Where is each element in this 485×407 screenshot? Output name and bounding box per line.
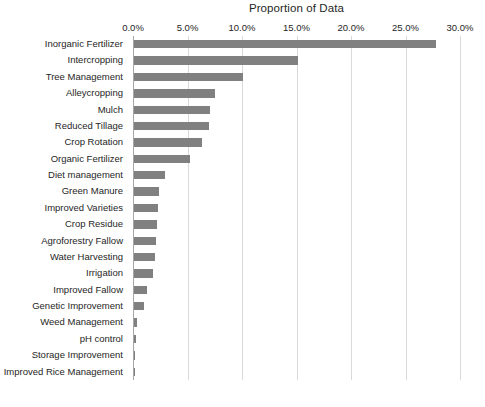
- category-label: Green Manure: [0, 183, 128, 199]
- bar: [134, 138, 202, 146]
- chart-row: Intercropping: [0, 52, 485, 68]
- bar: [134, 89, 215, 97]
- category-label: Tree Management: [0, 69, 128, 85]
- category-label: Storage Improvement: [0, 347, 128, 363]
- bar: [134, 40, 436, 48]
- chart-row: Organic Fertilizer: [0, 151, 485, 167]
- bar: [134, 318, 137, 326]
- chart-row: Improved Varieties: [0, 200, 485, 216]
- chart-row: Weed Management: [0, 314, 485, 330]
- category-label: Irrigation: [0, 265, 128, 281]
- category-label: Alleycropping: [0, 85, 128, 101]
- category-label: Inorganic Fertilizer: [0, 36, 128, 52]
- bar: [134, 351, 135, 359]
- bar: [134, 269, 153, 277]
- category-label: Genetic Improvement: [0, 298, 128, 314]
- bar: [134, 155, 190, 163]
- chart-row: Tree Management: [0, 69, 485, 85]
- bar: [134, 220, 157, 228]
- bar: [134, 335, 136, 343]
- chart-row: Inorganic Fertilizer: [0, 36, 485, 52]
- bar: [134, 106, 210, 114]
- chart-row: Storage Improvement: [0, 347, 485, 363]
- bar: [134, 122, 209, 130]
- category-label: Intercropping: [0, 52, 128, 68]
- category-label: Water Harvesting: [0, 249, 128, 265]
- bar: [134, 286, 147, 294]
- chart-row: Improved Rice Management: [0, 364, 485, 380]
- chart-row: Crop Residue: [0, 216, 485, 232]
- chart-row: Green Manure: [0, 183, 485, 199]
- category-label: Weed Management: [0, 314, 128, 330]
- category-label: Mulch: [0, 102, 128, 118]
- category-label: pH control: [0, 331, 128, 347]
- bar: [134, 368, 135, 376]
- chart-row: Improved Fallow: [0, 282, 485, 298]
- category-label: Crop Rotation: [0, 134, 128, 150]
- chart-row: pH control: [0, 331, 485, 347]
- bar: [134, 73, 243, 81]
- bar: [134, 171, 165, 179]
- bar: [134, 204, 158, 212]
- category-label: Agroforestry Fallow: [0, 233, 128, 249]
- chart-row: Crop Rotation: [0, 134, 485, 150]
- chart-row: Irrigation: [0, 265, 485, 281]
- chart-row: Diet management: [0, 167, 485, 183]
- category-label: Improved Fallow: [0, 282, 128, 298]
- chart-row: Genetic Improvement: [0, 298, 485, 314]
- chart-row: Alleycropping: [0, 85, 485, 101]
- chart-row: Water Harvesting: [0, 249, 485, 265]
- bar: [134, 187, 159, 195]
- bar: [134, 237, 156, 245]
- bar: [134, 56, 298, 64]
- category-label: Crop Residue: [0, 216, 128, 232]
- bar-chart: Proportion of Data 0.0%5.0%10.0%15.0%20.…: [0, 0, 485, 407]
- bar: [134, 253, 155, 261]
- category-label: Reduced Tillage: [0, 118, 128, 134]
- category-rows: Inorganic FertilizerIntercroppingTree Ma…: [0, 0, 485, 344]
- chart-row: Agroforestry Fallow: [0, 233, 485, 249]
- chart-row: Reduced Tillage: [0, 118, 485, 134]
- category-label: Improved Varieties: [0, 200, 128, 216]
- category-label: Diet management: [0, 167, 128, 183]
- category-label: Organic Fertilizer: [0, 151, 128, 167]
- category-label: Improved Rice Management: [0, 364, 128, 380]
- bar: [134, 302, 144, 310]
- chart-row: Mulch: [0, 102, 485, 118]
